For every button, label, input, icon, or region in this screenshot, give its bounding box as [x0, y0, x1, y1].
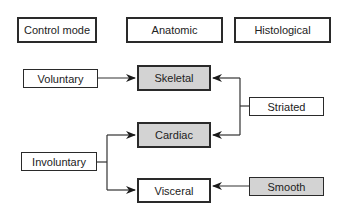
- node-voluntary: Voluntary: [23, 69, 98, 88]
- node-involuntary-label: Involuntary: [32, 156, 86, 168]
- header-anatomic-label: Anatomic: [152, 24, 198, 36]
- header-anatomic: Anatomic: [126, 17, 223, 43]
- node-cardiac: Cardiac: [137, 122, 211, 148]
- node-voluntary-label: Voluntary: [38, 73, 84, 85]
- node-cardiac-label: Cardiac: [155, 129, 193, 141]
- header-control-mode-label: Control mode: [24, 24, 90, 36]
- node-visceral: Visceral: [137, 178, 211, 203]
- header-histological-label: Histological: [254, 24, 310, 36]
- header-control-mode: Control mode: [17, 17, 97, 43]
- node-striated-label: Striated: [268, 101, 306, 113]
- node-smooth: Smooth: [249, 177, 324, 196]
- node-involuntary: Involuntary: [21, 152, 97, 171]
- node-smooth-label: Smooth: [268, 181, 306, 193]
- header-histological: Histological: [234, 17, 331, 43]
- node-skeletal: Skeletal: [137, 65, 211, 91]
- node-striated: Striated: [249, 97, 324, 116]
- node-visceral-label: Visceral: [155, 185, 194, 197]
- node-skeletal-label: Skeletal: [154, 72, 193, 84]
